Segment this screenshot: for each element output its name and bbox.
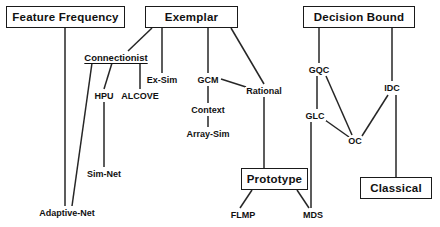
node-label-glc[interactable]: GLC bbox=[305, 112, 326, 121]
edge-connectionist-to-hpu bbox=[104, 63, 112, 89]
node-label-oc[interactable]: OC bbox=[347, 137, 363, 146]
node-label-array-sim[interactable]: Array-Sim bbox=[185, 130, 230, 139]
node-box-prototype[interactable]: Prototype bbox=[241, 168, 308, 190]
node-box-label: Exemplar bbox=[165, 11, 218, 23]
node-label-idc[interactable]: IDC bbox=[383, 84, 401, 93]
edge-prototype-to-mds bbox=[297, 190, 309, 208]
node-label-connectionist[interactable]: Connectionist bbox=[83, 53, 148, 63]
node-label-adaptive-net[interactable]: Adaptive-Net bbox=[38, 209, 96, 218]
node-label-mds[interactable]: MDS bbox=[302, 211, 324, 220]
node-label-hpu[interactable]: HPU bbox=[93, 92, 114, 101]
node-label-gqc[interactable]: GQC bbox=[308, 66, 331, 75]
node-box-label: Classical bbox=[370, 182, 422, 194]
node-box-decision-bound[interactable]: Decision Bound bbox=[303, 6, 415, 28]
node-box-label: Decision Bound bbox=[314, 11, 404, 23]
edge-gqc-to-oc bbox=[326, 76, 352, 135]
node-box-label: Prototype bbox=[247, 173, 302, 185]
edge-connectionist-to-adaptive-net bbox=[72, 63, 92, 206]
node-label-gcm[interactable]: GCM bbox=[197, 76, 220, 85]
node-box-exemplar[interactable]: Exemplar bbox=[145, 6, 238, 28]
node-box-classical[interactable]: Classical bbox=[360, 177, 432, 199]
edge-glc-to-oc bbox=[325, 120, 349, 137]
node-box-feature-frequency[interactable]: Feature Frequency bbox=[6, 6, 125, 28]
edge-prototype-to-flmp bbox=[240, 190, 252, 208]
edge-exemplar-to-connectionist bbox=[128, 28, 152, 51]
node-label-flmp[interactable]: FLMP bbox=[230, 211, 257, 220]
node-label-ex-sim[interactable]: Ex-Sim bbox=[146, 76, 179, 85]
node-label-alcove[interactable]: ALCOVE bbox=[120, 92, 160, 101]
node-label-context[interactable]: Context bbox=[190, 106, 226, 115]
diagram-canvas: Feature FrequencyExemplarDecision BoundP… bbox=[0, 0, 440, 227]
edge-idc-to-oc bbox=[362, 95, 388, 136]
node-label-rational[interactable]: Rational bbox=[245, 87, 283, 96]
node-label-sim-net[interactable]: Sim-Net bbox=[86, 170, 122, 179]
node-box-label: Feature Frequency bbox=[12, 11, 118, 23]
edge-exemplar-to-rational bbox=[231, 28, 264, 84]
edge-gcm-to-rational bbox=[221, 79, 246, 87]
